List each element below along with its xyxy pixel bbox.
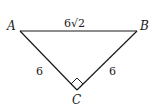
side-label-bc: 6 (109, 65, 116, 78)
side-label-ab: 6√2 (64, 17, 85, 30)
right-angle-marker-icon (71, 78, 83, 90)
vertex-label-b: B (139, 19, 149, 33)
triangle-edges (20, 31, 137, 90)
side-label-ac: 6 (36, 65, 43, 78)
vertex-label-c: C (72, 93, 81, 107)
side-ac (20, 31, 77, 90)
side-bc (77, 31, 137, 90)
triangle-diagram: A B C 6√2 6 6 (0, 0, 157, 109)
vertex-label-a: A (6, 19, 16, 33)
